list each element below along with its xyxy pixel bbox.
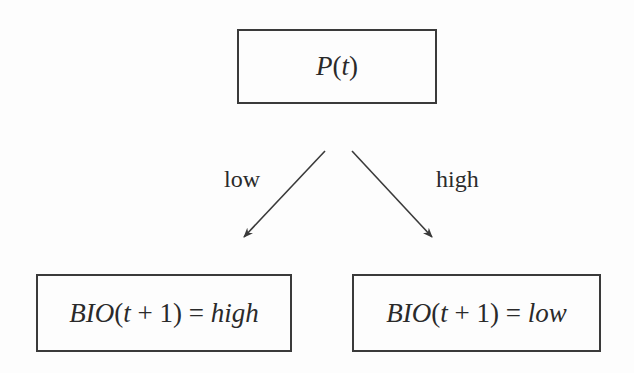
root-label-func: P [316, 51, 333, 81]
paren-close: ) [349, 51, 358, 81]
equals-sign: = [182, 298, 211, 328]
root-label-var: t [341, 51, 349, 81]
leaf-node-high: BIO(t + 1) = high [36, 274, 292, 352]
leaf-right-label: BIO(t + 1) = low [386, 298, 566, 329]
paren-close: ) [490, 298, 499, 328]
paren-open: ( [431, 298, 440, 328]
paren-open: ( [114, 298, 123, 328]
leaf-value: high [211, 298, 259, 328]
root-label: P(t) [316, 51, 358, 82]
root-node: P(t) [237, 29, 437, 104]
leaf-num: 1 [476, 298, 490, 328]
edge-arrow-high [352, 151, 432, 237]
edge-label-high: high [436, 166, 479, 193]
leaf-func: BIO [69, 298, 114, 328]
plus-sign: + [448, 298, 477, 328]
leaf-left-label: BIO(t + 1) = high [69, 298, 258, 329]
edge-arrow-low [244, 151, 325, 237]
leaf-func: BIO [386, 298, 431, 328]
leaf-num: 1 [159, 298, 173, 328]
plus-sign: + [131, 298, 160, 328]
leaf-var: t [123, 298, 131, 328]
edge-label-low: low [224, 166, 260, 193]
leaf-node-low: BIO(t + 1) = low [352, 274, 601, 352]
equals-sign: = [499, 298, 528, 328]
leaf-value: low [528, 298, 567, 328]
leaf-var: t [440, 298, 448, 328]
paren-close: ) [173, 298, 182, 328]
